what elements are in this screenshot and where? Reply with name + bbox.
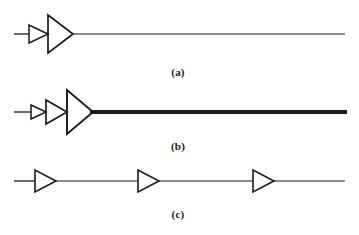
- panel-b-amplifier-2-icon: [46, 100, 67, 124]
- panel-b-amplifier-1-icon: [31, 105, 46, 119]
- panel-b-caption: (b): [148, 140, 208, 152]
- figure-container: (a) (b) (c): [0, 0, 359, 235]
- panel-c-amplifier-1-icon: [35, 170, 56, 192]
- panel-b: [14, 90, 347, 134]
- amplifier-cascade-diagram: [0, 0, 359, 235]
- panel-a: [14, 15, 345, 53]
- panel-a-caption: (a): [148, 66, 208, 78]
- panel-a-amplifier-2-icon: [48, 15, 73, 53]
- panel-c-amplifier-2-icon: [138, 170, 159, 192]
- panel-b-amplifier-3-icon: [67, 90, 93, 134]
- panel-c-amplifier-3-icon: [253, 170, 274, 192]
- panel-c: [14, 170, 345, 192]
- panel-c-caption: (c): [148, 208, 208, 220]
- panel-a-amplifier-1-icon: [29, 25, 48, 43]
